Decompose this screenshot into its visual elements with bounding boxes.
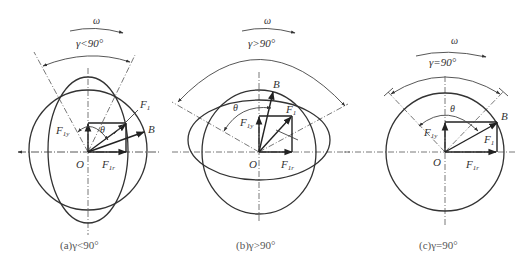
f1y-label: F1y — [239, 116, 254, 130]
panel-b: ω γ>90° B θ F1 F1y O F1r (b)γ>90° — [172, 15, 350, 252]
origin-label: O — [76, 158, 84, 170]
omega-label: ω — [451, 35, 458, 46]
omega-rotation-arrow — [70, 28, 123, 33]
theta-label: θ — [100, 124, 105, 135]
caption-c: (c)γ=90° — [419, 239, 458, 252]
panel-a: ω γ<90° F1 B θ F1y O F1r (a)γ<90° — [18, 15, 160, 252]
caption-a: (a)γ<90° — [60, 239, 99, 252]
gamma-angle-arc — [391, 77, 500, 94]
origin-label: O — [249, 158, 257, 170]
b-label: B — [501, 110, 508, 122]
f1y-label: F1y — [423, 126, 438, 140]
gamma-angle-arc — [178, 59, 345, 106]
gamma-angle-arc — [43, 56, 130, 66]
caption-b: (b)γ>90° — [236, 239, 275, 252]
boundary-line-right — [259, 104, 348, 152]
omega-label: ω — [93, 15, 100, 26]
f1r-label: F1r — [280, 158, 294, 172]
theta-label: θ — [450, 103, 455, 114]
origin-label: O — [433, 156, 441, 168]
theta-label: θ — [233, 102, 238, 113]
f1-label: F1 — [139, 98, 150, 112]
diagram-svg: ω γ<90° F1 B θ F1y O F1r (a)γ<90° — [0, 0, 524, 268]
omega-label: ω — [264, 15, 271, 26]
b-label: B — [148, 123, 155, 135]
boundary-line-left — [34, 52, 88, 152]
omega-rotation-arrow — [242, 28, 295, 33]
b-label: B — [273, 78, 280, 90]
panel-c: ω γ=90° θ B F1y F1 O F1r (c)γ=90° — [344, 35, 515, 252]
f1r-label: F1r — [465, 158, 479, 172]
f1-leader-line — [276, 130, 298, 140]
f1-label: F1 — [483, 133, 494, 147]
gamma-label: γ<90° — [76, 37, 104, 49]
vector-b — [259, 92, 273, 152]
figure-stage: ω γ<90° F1 B θ F1y O F1r (a)γ<90° — [0, 0, 524, 268]
boundary-tick-left — [384, 88, 393, 96]
f1y-label: F1y — [55, 124, 70, 138]
vector-b — [88, 132, 144, 152]
gamma-label: γ=90° — [429, 56, 457, 68]
gamma-label: γ>90° — [248, 37, 276, 49]
f1r-label: F1r — [101, 158, 115, 172]
